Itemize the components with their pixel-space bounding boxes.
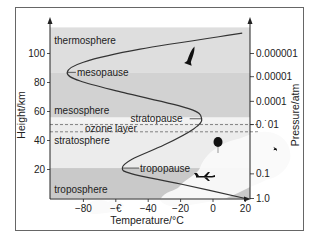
x-tick-label: −40 (140, 203, 157, 214)
y2-tick-label: 0.1 (256, 168, 270, 179)
label-thermosphere: thermosphere (54, 35, 116, 46)
y-tick-label: 100 (28, 48, 45, 59)
label-ozone-layer: ozone layer (85, 123, 137, 134)
label-mesopause: mesopause (77, 67, 129, 78)
x-tick-label: −€ (110, 203, 122, 214)
y2-tick-label: 0.˙01 (256, 119, 279, 130)
y-tick-label: 20 (34, 164, 46, 175)
x-axis-label: Temperature/°C (110, 214, 184, 226)
label-stratosphere: stratosphere (54, 135, 110, 146)
y2-tick-label: 0.0001 (256, 96, 287, 107)
label-mesosphere: mesosphere (54, 105, 109, 116)
y-tick-label: 40 (34, 135, 46, 146)
y-ticks: 20406080100 (28, 48, 50, 175)
arrow-up-icon (48, 17, 53, 24)
arrow-up-icon (248, 17, 253, 24)
label-troposphere: troposphere (54, 184, 108, 195)
x-tick-label: 0 (210, 203, 216, 214)
label-tropopause: tropopause (140, 163, 190, 174)
x-tick-label: 20 (240, 203, 252, 214)
atmosphere-chart: −80−€−40−20020 20406080100 0.0000010.000… (0, 0, 316, 246)
x-tick-label: −20 (172, 203, 189, 214)
y-axis-label: Height/km (15, 91, 27, 139)
y2-tick-label: 0.000001 (256, 48, 298, 59)
y-tick-label: 80 (34, 77, 46, 88)
y2-tick-label: 0.00001 (256, 71, 293, 82)
y-tick-label: 60 (34, 106, 46, 117)
label-stratopause: stratopause (130, 113, 183, 124)
x-tick-label: −80 (75, 203, 92, 214)
y2-axis-label: Pressure/atm (289, 84, 301, 147)
y2-tick-label: 1.0 (256, 193, 270, 204)
